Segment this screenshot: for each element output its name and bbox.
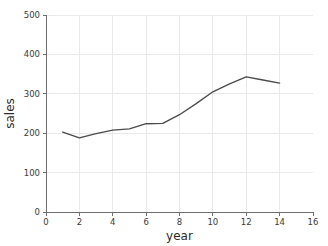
y-axis-title: sales — [3, 98, 17, 129]
x-tick-label: 6 — [143, 217, 148, 227]
y-tick-label: 100 — [24, 168, 40, 178]
x-tick-label: 16 — [308, 217, 319, 227]
y-tick-label: 0 — [35, 207, 40, 217]
y-tick-label: 500 — [24, 10, 40, 20]
y-tick-label: 200 — [24, 128, 40, 138]
line-chart: 0100200300400500 0246810121416 year sale… — [0, 0, 328, 246]
x-tick-label: 0 — [43, 217, 48, 227]
chart-figure: 0100200300400500 0246810121416 year sale… — [0, 0, 328, 246]
y-tick-label: 300 — [24, 89, 40, 99]
x-tick-label: 14 — [274, 217, 285, 227]
x-tick-label: 12 — [241, 217, 252, 227]
y-tick-label: 400 — [24, 49, 40, 59]
x-tick-label: 2 — [77, 217, 82, 227]
x-tick-label: 4 — [110, 217, 115, 227]
x-axis-title: year — [166, 229, 193, 243]
x-tick-label: 10 — [207, 217, 218, 227]
x-tick-label: 8 — [177, 217, 182, 227]
